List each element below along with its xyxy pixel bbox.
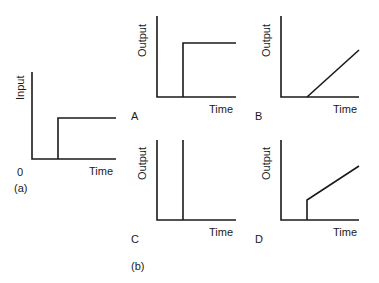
input-ylabel: Input xyxy=(14,76,26,100)
panel-c-axes xyxy=(157,140,236,220)
panel-d-ylabel: Output xyxy=(260,147,272,180)
output-panel-a: Output Time A xyxy=(131,16,236,122)
panel-a-step-signal xyxy=(183,43,236,97)
output-panel-b: Output Time B xyxy=(255,16,359,122)
panel-a-xlabel: Time xyxy=(209,103,233,115)
input-step-signal xyxy=(58,118,116,159)
panel-d-letter: D xyxy=(255,233,263,245)
output-panel-c: Output Time C (b) xyxy=(131,140,236,272)
input-xlabel: Time xyxy=(89,165,113,177)
panel-a-ylabel: Output xyxy=(136,24,148,57)
panel-d-axes xyxy=(281,140,359,220)
panel-a-tag: (a) xyxy=(14,182,27,194)
panel-a-letter: A xyxy=(131,110,139,122)
panel-c-letter: C xyxy=(131,233,139,245)
panel-a-axes xyxy=(157,16,236,97)
panel-c-ylabel: Output xyxy=(136,147,148,180)
diagram-canvas: Input 0 Time (a) Output Time A Output Ti… xyxy=(0,0,379,283)
input-panel: Input 0 Time (a) xyxy=(14,72,116,194)
panel-b-ramp-signal xyxy=(307,50,359,97)
origin-label: 0 xyxy=(17,166,23,178)
panel-b-tag: (b) xyxy=(131,260,144,272)
output-panel-d: Output Time D xyxy=(255,140,359,245)
panel-d-step-ramp-signal xyxy=(307,166,359,220)
panel-c-xlabel: Time xyxy=(209,226,233,238)
panel-b-ylabel: Output xyxy=(260,24,272,57)
input-axes xyxy=(32,72,116,159)
panel-b-letter: B xyxy=(255,110,262,122)
panel-b-xlabel: Time xyxy=(333,103,357,115)
panel-d-xlabel: Time xyxy=(333,226,357,238)
